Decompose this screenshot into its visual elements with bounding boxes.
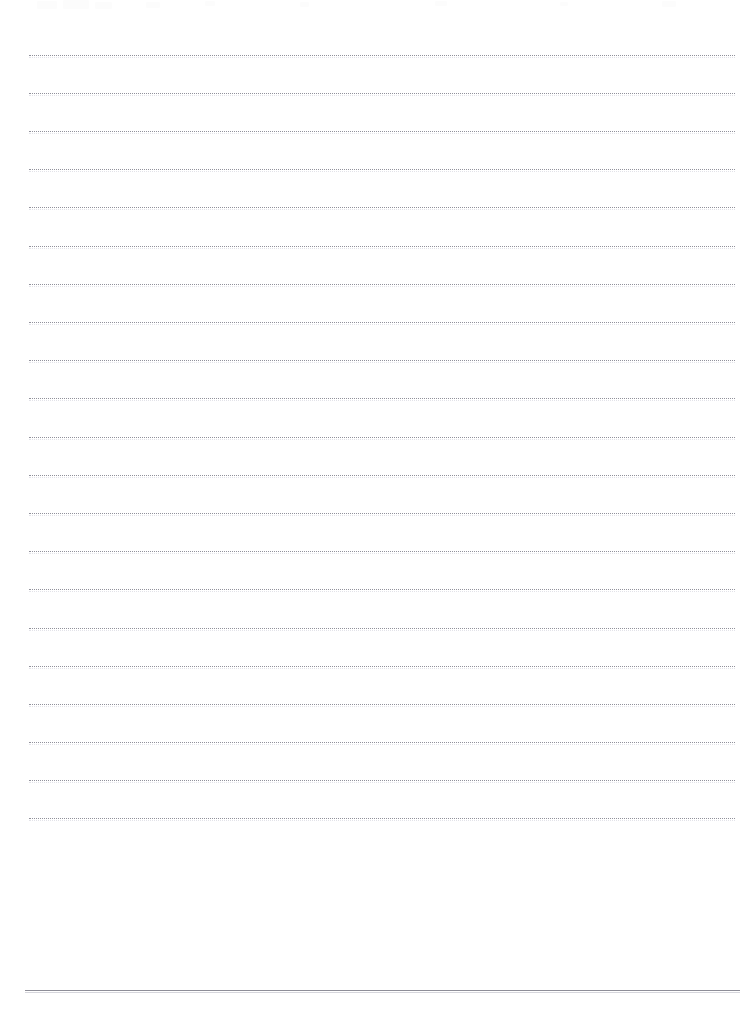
writing-rule-line (29, 437, 735, 438)
scanned-page (0, 0, 754, 1025)
writing-rule-line (29, 360, 735, 361)
writing-rule-line (29, 704, 735, 705)
scan-artifact-mark (300, 2, 309, 7)
writing-rule-line (29, 55, 735, 56)
writing-rule-line (29, 513, 735, 514)
scan-artifact-mark (63, 0, 89, 9)
writing-rule-line (29, 742, 735, 743)
scan-artifact-mark (662, 1, 676, 7)
writing-rule-line (29, 818, 735, 819)
scan-artifact-mark (37, 1, 57, 9)
writing-rule-line (29, 131, 735, 132)
writing-rule-line (29, 589, 735, 590)
scan-artifact-mark (95, 2, 112, 9)
writing-rule-line (29, 93, 735, 94)
writing-rule-line (29, 322, 735, 323)
writing-rule-line (29, 551, 735, 552)
writing-rule-line (29, 780, 735, 781)
scan-artifact-mark (435, 1, 447, 6)
writing-rule-line (29, 207, 735, 208)
writing-rule-line (29, 628, 735, 629)
writing-rule-line (29, 398, 735, 399)
writing-rule-line (29, 666, 735, 667)
scan-artifact-mark (560, 2, 568, 6)
writing-rule-line (29, 475, 735, 476)
scan-artifact-mark (146, 2, 160, 8)
writing-rule-line (29, 284, 735, 285)
footer-rule-line (25, 990, 740, 991)
writing-rule-line (29, 169, 735, 170)
writing-rule-line (29, 246, 735, 247)
scan-artifact-mark (205, 1, 215, 6)
